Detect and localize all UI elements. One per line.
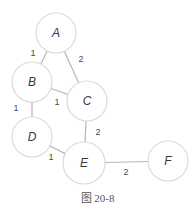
node-a: A bbox=[36, 13, 76, 53]
figure-caption: 图 20-8 bbox=[0, 189, 195, 205]
node-c: C bbox=[67, 81, 107, 121]
edge-a-c bbox=[64, 51, 78, 83]
node-d: D bbox=[12, 117, 52, 157]
edge-e-f bbox=[105, 161, 148, 162]
edge-weight-b-d: 1 bbox=[13, 103, 18, 113]
edge-a-b bbox=[41, 51, 47, 64]
nodes: ABCDEF bbox=[12, 13, 188, 184]
edge-b-c bbox=[51, 89, 68, 95]
node-label: E bbox=[80, 156, 89, 170]
graph-diagram: ABCDEF 1211212 bbox=[0, 0, 195, 208]
node-label: A bbox=[51, 26, 60, 40]
edge-weight-b-c: 1 bbox=[54, 97, 59, 107]
edge-weight-c-e: 2 bbox=[95, 127, 100, 137]
node-b: B bbox=[12, 62, 52, 102]
edge-weight-d-e: 1 bbox=[48, 152, 53, 162]
edge-weight-a-c: 2 bbox=[78, 54, 83, 64]
node-label: D bbox=[28, 130, 37, 144]
node-label: B bbox=[28, 75, 36, 89]
node-label: F bbox=[164, 154, 172, 168]
node-f: F bbox=[148, 141, 188, 181]
edge-weight-e-f: 2 bbox=[123, 167, 128, 177]
node-label: C bbox=[83, 94, 92, 108]
edge-c-e bbox=[85, 121, 86, 142]
node-e: E bbox=[63, 142, 105, 184]
edge-weight-a-b: 1 bbox=[30, 48, 35, 58]
